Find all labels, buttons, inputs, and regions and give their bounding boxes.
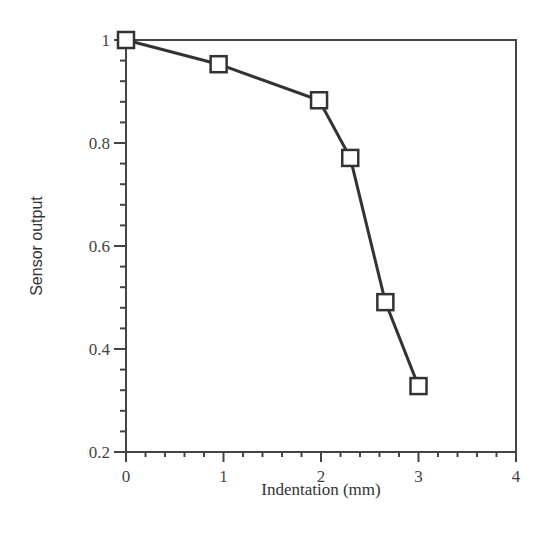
y-tick-label: 0.2: [89, 443, 110, 462]
series-line: [126, 40, 419, 386]
y-tick-label: 0.8: [89, 134, 110, 153]
square-marker: [118, 32, 134, 48]
square-marker: [311, 92, 327, 108]
x-axis-title: Indentation (mm): [261, 480, 380, 499]
y-axis-title: Sensor output: [28, 196, 45, 296]
square-marker: [211, 56, 227, 72]
x-tick-label: 1: [219, 467, 228, 486]
line-chart: 01234 0.20.40.60.81 Indentation (mm) Sen…: [0, 0, 547, 550]
square-marker: [342, 150, 358, 166]
y-tick-label: 0.4: [89, 340, 111, 359]
square-marker: [377, 294, 393, 310]
x-tick-label: 4: [512, 467, 521, 486]
y-tick-labels: 0.20.40.60.81: [89, 31, 111, 462]
x-tick-label: 0: [122, 467, 131, 486]
data-series: [118, 32, 427, 394]
y-tick-label: 0.6: [89, 237, 110, 256]
y-tick-label: 1: [102, 31, 111, 50]
square-marker: [411, 378, 427, 394]
x-tick-label: 3: [414, 467, 423, 486]
